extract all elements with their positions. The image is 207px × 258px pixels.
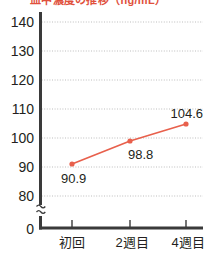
data-point-marker-2 — [183, 121, 188, 126]
y-tick-label-110: 110 — [12, 101, 35, 117]
y-tick-label-100: 100 — [11, 130, 35, 146]
x-tick-label-1: 2週目 — [115, 235, 148, 250]
data-point-marker-1 — [127, 138, 132, 143]
x-axis-ticks — [72, 220, 186, 227]
line-chart-figure: 血中濃度の推移（ng/mL） 140 130 120 110 100 90 80… — [0, 0, 207, 258]
y-tick-label-140: 140 — [11, 14, 35, 30]
x-tick-label-2: 4週目 — [171, 235, 204, 250]
data-label-0: 90.9 — [61, 171, 86, 186]
x-tick-label-0: 初回 — [59, 235, 85, 250]
data-point-marker-0 — [69, 161, 74, 166]
axis-break-icon — [37, 205, 46, 213]
y-tick-label-90: 90 — [18, 159, 34, 175]
data-point-labels: 90.9 98.8 104.6 — [61, 106, 203, 186]
y-tick-label-0: 0 — [26, 221, 34, 237]
y-tick-label-80: 80 — [18, 188, 34, 204]
y-tick-label-120: 120 — [11, 72, 35, 88]
data-label-1: 98.8 — [128, 147, 153, 162]
y-axis-labels: 140 130 120 110 100 90 80 0 — [11, 14, 35, 237]
chart-plot-area: 140 130 120 110 100 90 80 0 — [0, 0, 207, 258]
data-label-2: 104.6 — [170, 106, 203, 121]
x-axis-labels: 初回 2週目 4週目 — [59, 235, 205, 250]
y-tick-label-130: 130 — [11, 43, 35, 59]
